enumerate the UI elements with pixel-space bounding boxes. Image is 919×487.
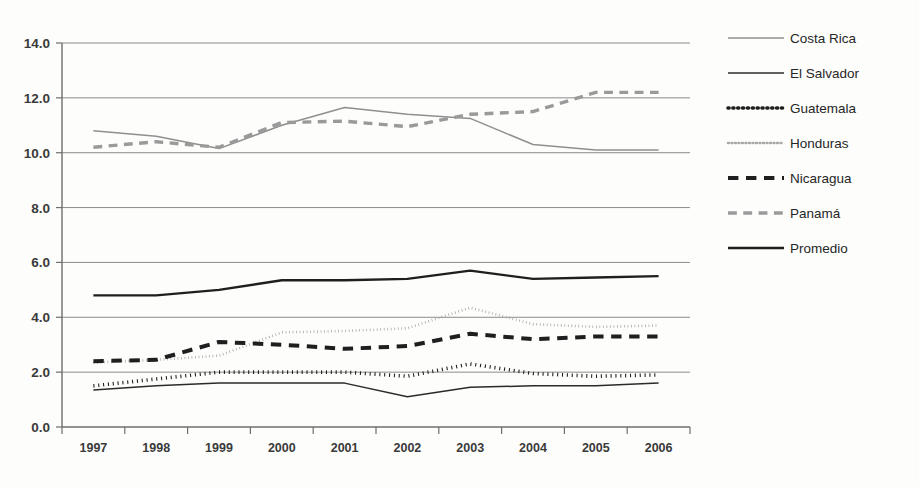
- x-axis-tick-label: 1997: [79, 441, 107, 455]
- legend-label: Honduras: [790, 136, 849, 151]
- legend-label: Nicaragua: [790, 171, 852, 186]
- series-line-nicaragua: [93, 334, 658, 361]
- x-axis-tick-label: 1998: [142, 441, 170, 455]
- y-axis-tick-label: 4.0: [31, 310, 50, 325]
- legend-label: Costa Rica: [790, 31, 857, 46]
- y-axis-tick-label: 8.0: [31, 201, 50, 216]
- series-line-panam-: [93, 92, 658, 147]
- x-axis-tick-label: 1999: [205, 441, 233, 455]
- series-line-promedio: [93, 271, 658, 296]
- x-axis-tick-label: 2003: [456, 441, 484, 455]
- x-axis-ticklabels: 1997199819992000200120022003200420052006: [62, 427, 690, 455]
- y-axis-tick-label: 14.0: [24, 36, 50, 51]
- legend-label: Guatemala: [790, 101, 857, 116]
- x-axis-tick-label: 2006: [645, 441, 673, 455]
- legend-label: Promedio: [790, 241, 848, 256]
- y-axis-tick-label: 12.0: [24, 91, 50, 106]
- y-axis-tick-label: 6.0: [31, 255, 50, 270]
- legend: Costa RicaEl SalvadorGuatemalaHondurasNi…: [728, 31, 860, 256]
- x-axis-tick-label: 2005: [582, 441, 610, 455]
- x-axis-tick-label: 2000: [268, 441, 296, 455]
- series-line-honduras: [93, 308, 658, 363]
- x-axis-tick-label: 2004: [519, 441, 547, 455]
- series-line-guatemala: [93, 364, 658, 386]
- series-group: [93, 92, 658, 396]
- x-axis-tick-label: 2001: [331, 441, 359, 455]
- x-axis-tick-label: 2002: [393, 441, 421, 455]
- series-line-el-salvador: [93, 383, 658, 397]
- y-axis-tick-label: 2.0: [31, 365, 50, 380]
- axis-lines: [62, 43, 690, 427]
- legend-label: Panamá: [790, 206, 841, 221]
- y-axis-tick-label: 10.0: [24, 146, 50, 161]
- y-axis-ticklabels: 0.02.04.06.08.010.012.014.0: [24, 36, 62, 435]
- legend-label: El Salvador: [790, 66, 860, 81]
- y-axis-tick-label: 0.0: [31, 420, 50, 435]
- chart-canvas: 0.02.04.06.08.010.012.014.0 199719981999…: [0, 0, 919, 487]
- line-chart: 0.02.04.06.08.010.012.014.0 199719981999…: [0, 0, 919, 487]
